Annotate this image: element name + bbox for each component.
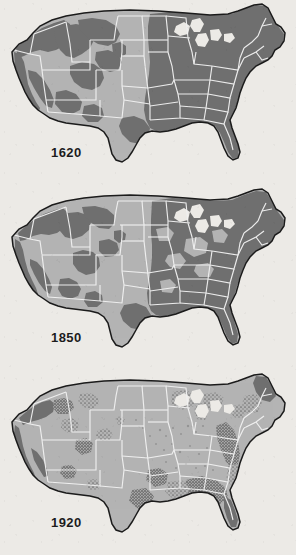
- map-panel-1620: [0, 0, 296, 185]
- year-label-1850: 1850: [51, 330, 82, 345]
- map-land-area: [0, 185, 296, 370]
- map-land-area: [0, 370, 296, 555]
- year-label-1620: 1620: [51, 145, 82, 160]
- map-panel-1850: [0, 185, 296, 370]
- map-land-area: [0, 0, 296, 185]
- us-map-1920: [0, 370, 296, 555]
- us-map-1620: [0, 0, 296, 185]
- year-label-1920: 1920: [51, 515, 82, 530]
- map-panel-1920: [0, 370, 296, 555]
- us-map-1850: [0, 185, 296, 370]
